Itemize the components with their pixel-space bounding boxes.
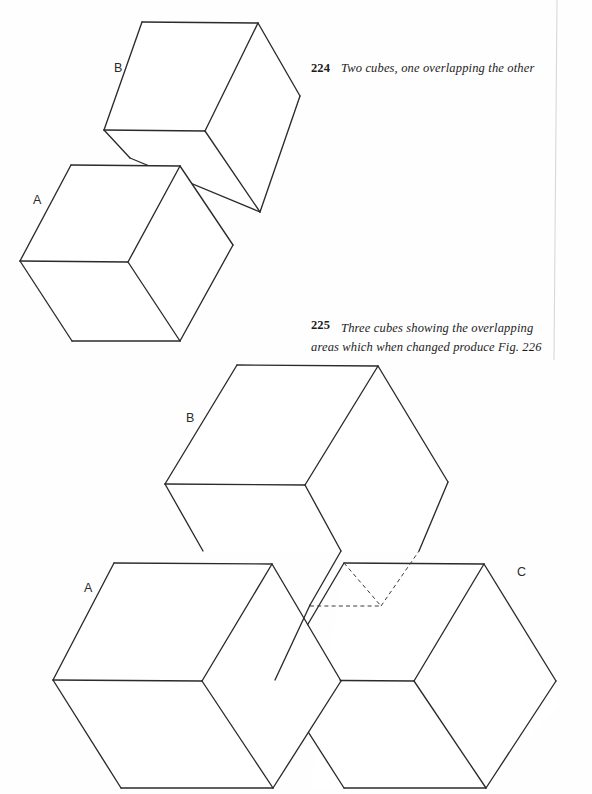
vertex-label-b-224: B [114, 61, 123, 75]
cube-a-224 [20, 165, 233, 341]
vertex-label-a-225: A [84, 581, 93, 595]
caption-figure-224: 224Two cubes, one overlapping the other [311, 58, 561, 77]
caption-number-224: 224 [311, 61, 330, 75]
figure-225-drawing: B A C [53, 365, 558, 788]
page-canvas: B A [0, 0, 592, 794]
figure-illustrations: B A [0, 0, 592, 794]
page-edge-artifact [554, 0, 557, 360]
vertex-label-c-225: C [517, 565, 526, 579]
caption-text-224: Two cubes, one overlapping the other [341, 61, 534, 75]
vertex-label-b-225: B [186, 411, 195, 425]
vertex-label-a-224: A [33, 193, 42, 207]
cube-b-225 [165, 365, 448, 551]
caption-number-225: 225 [311, 318, 330, 333]
caption-text-225: Three cubes showing the overlapping area… [311, 321, 542, 354]
junction-edge-left [310, 551, 341, 605]
caption-figure-225: 225Three cubes showing the overlapping a… [311, 318, 551, 356]
figure-224-drawing: B A [20, 22, 300, 341]
cube-a-225 [53, 563, 341, 788]
